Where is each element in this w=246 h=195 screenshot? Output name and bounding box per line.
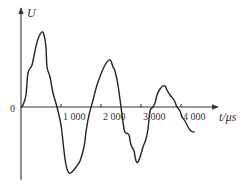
- x-tick-label: 4 000: [183, 111, 206, 122]
- origin-label: 0: [10, 103, 15, 114]
- x-tick-label: 3 000: [143, 111, 166, 122]
- waveform-chart: 1 0002 0003 0004 000 U t/μs 0: [0, 0, 246, 195]
- waveform-line: [21, 32, 194, 173]
- x-axis-title: t/μs: [219, 110, 237, 124]
- x-tick-label: 1 000: [63, 111, 86, 122]
- y-axis-title: U: [27, 6, 37, 20]
